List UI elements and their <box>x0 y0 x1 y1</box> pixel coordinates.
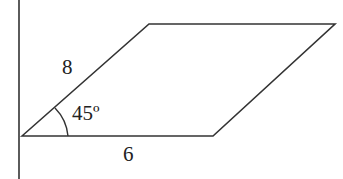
side-label-left: 8 <box>62 55 73 79</box>
angle-label: 45º <box>72 101 100 125</box>
angle-arc <box>55 108 68 136</box>
diagram-canvas: 8 45º 6 <box>0 0 343 179</box>
parallelogram <box>22 24 335 136</box>
side-label-bottom: 6 <box>123 142 134 166</box>
